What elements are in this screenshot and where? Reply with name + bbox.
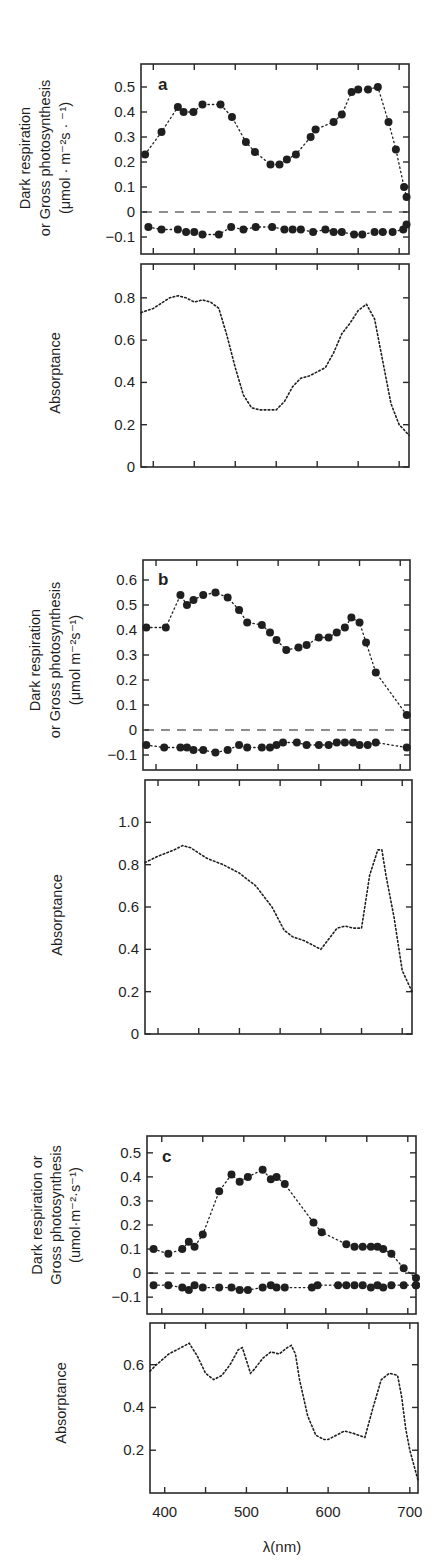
data-point [400, 183, 408, 191]
y-tick-label: 0.4 [120, 1168, 141, 1185]
data-point [364, 86, 372, 94]
absorptance-curve [145, 846, 412, 992]
data-point [215, 231, 223, 239]
data-point [227, 1284, 235, 1292]
y-tick-label: 0.4 [114, 373, 135, 390]
data-point [374, 83, 382, 91]
data-point [150, 1245, 158, 1253]
data-point [379, 228, 387, 236]
data-point [389, 228, 397, 236]
y-tick-label: −0.1 [107, 746, 137, 763]
data-point [215, 1187, 223, 1195]
data-point [364, 741, 372, 749]
plot-frame [150, 1323, 418, 1493]
data-point [412, 1281, 420, 1289]
y-axis-title: Dark respiration [27, 609, 43, 711]
data-point [224, 594, 232, 602]
data-point [211, 589, 219, 597]
data-point [273, 1284, 281, 1292]
data-point [268, 223, 276, 231]
data-point [164, 1281, 172, 1289]
data-point [273, 636, 281, 644]
panel-a-absorptance: 00.20.40.60.8Absorptance [47, 264, 409, 475]
data-point [379, 1284, 387, 1292]
data-point [211, 749, 219, 757]
y-axis-title: Dark respiration or [29, 1155, 45, 1274]
data-point [315, 634, 323, 642]
data-point [142, 624, 150, 632]
data-point [178, 1245, 186, 1253]
x-axis-title: λ(nm) [263, 1538, 301, 1555]
y-tick-label: 0.2 [120, 1216, 141, 1233]
data-point [392, 146, 400, 154]
data-point [347, 614, 355, 622]
y-tick-label: 1.0 [118, 813, 139, 830]
data-point [157, 128, 165, 136]
x-tick-label: 500 [234, 1503, 259, 1520]
panel-label: a [158, 75, 168, 94]
data-point [273, 1173, 281, 1181]
data-point [292, 151, 300, 159]
data-point [224, 746, 232, 754]
data-point [289, 226, 297, 234]
panel-label: c [162, 1147, 171, 1166]
data-point [236, 1286, 244, 1294]
data-point [281, 1180, 289, 1188]
data-point [385, 118, 393, 126]
data-point [141, 151, 149, 159]
data-point [283, 156, 291, 164]
data-point [258, 744, 266, 752]
y-tick-label: 0.2 [114, 153, 135, 170]
data-point [350, 1281, 358, 1289]
data-point [235, 741, 243, 749]
data-point [400, 1264, 408, 1272]
y-axis-title: or Gross photosynthesis [37, 80, 53, 236]
data-point [198, 231, 206, 239]
y-tick-label: 0.4 [118, 940, 139, 957]
series-line [146, 593, 406, 716]
data-point [358, 231, 366, 239]
y-tick-label: 0.3 [116, 646, 137, 663]
data-point [350, 1243, 358, 1251]
data-point [199, 591, 207, 599]
data-point [244, 1286, 252, 1294]
data-point [297, 226, 305, 234]
data-point [252, 223, 260, 231]
data-point [239, 226, 247, 234]
data-point [315, 741, 323, 749]
data-point [198, 101, 206, 109]
data-point [280, 226, 288, 234]
y-axis-title: Absorptance [53, 1362, 69, 1443]
data-point [356, 619, 364, 627]
y-tick-label: 0.6 [114, 331, 135, 348]
data-point [216, 101, 224, 109]
data-point [309, 228, 317, 236]
data-point [243, 744, 251, 752]
y-tick-label: 0.8 [118, 856, 139, 873]
data-point [293, 739, 301, 747]
data-point [258, 621, 266, 629]
data-point [325, 634, 333, 642]
data-point [164, 1250, 172, 1258]
data-point [321, 226, 329, 234]
data-point [183, 601, 191, 609]
data-point [176, 591, 184, 599]
data-point [387, 1250, 395, 1258]
data-point [379, 1245, 387, 1253]
data-point [372, 739, 380, 747]
y-axis-title: Absorptance [47, 332, 63, 413]
chart-panels: −0.100.10.20.30.40.5Dark respirationor G… [17, 64, 422, 1520]
data-point [191, 1243, 199, 1251]
data-point [338, 111, 346, 119]
y-tick-label: 0.4 [116, 621, 137, 638]
data-point [333, 629, 341, 637]
y-tick-label: 0.5 [114, 78, 135, 95]
data-point [259, 1166, 267, 1174]
data-point [199, 1284, 207, 1292]
data-point [190, 228, 198, 236]
data-point [189, 596, 197, 604]
y-tick-label: 0.4 [123, 1398, 144, 1415]
y-axis-title: Gross photosynthesis [48, 1145, 64, 1284]
x-tick-label: 600 [316, 1503, 341, 1520]
data-point [403, 744, 411, 752]
